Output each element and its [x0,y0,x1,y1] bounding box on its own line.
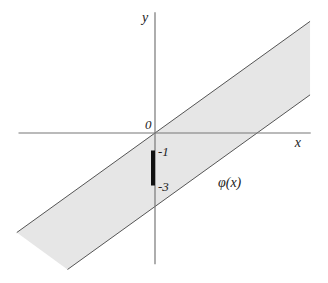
band-diagram: y x 0 -1 -3 φ(x) [0,0,328,283]
interval-label-bottom: -3 [158,179,169,194]
function-label: φ(x) [218,175,242,191]
interval-label-top: -1 [158,144,169,159]
x-axis-label: x [294,135,302,150]
origin-label: 0 [145,117,152,132]
y-axis-label: y [140,10,149,25]
